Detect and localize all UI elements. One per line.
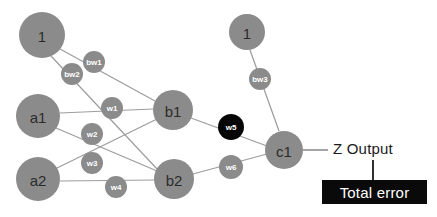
- weight-w3: w3: [81, 152, 103, 174]
- weight-label-w3: w3: [86, 159, 98, 168]
- weight-label-w6: w6: [225, 163, 237, 172]
- weight-bw3: bw3: [249, 68, 271, 90]
- neural-network-diagram: 1a1a2b1b21c1 bw1bw2bw3w1w2w3w4w5w6 Z Out…: [0, 0, 437, 217]
- weight-label-bw3: bw3: [252, 75, 268, 84]
- weight-w4: w4: [105, 176, 127, 198]
- node-bias2: 1: [229, 14, 265, 50]
- edge-a2-b1: [55, 119, 157, 169]
- node-b2: b2: [154, 159, 194, 199]
- weight-label-bw2: bw2: [64, 70, 80, 79]
- edge-a1-b2: [56, 128, 157, 171]
- node-a1: a1: [16, 94, 60, 138]
- node-b1: b1: [153, 90, 193, 130]
- nodes-group: 1a1a2b1b21c1: [16, 12, 303, 201]
- weight-w6: w6: [219, 155, 243, 179]
- node-label-b2: b2: [166, 172, 183, 189]
- weight-label-w1: w1: [106, 104, 118, 113]
- weight-label-bw1: bw1: [86, 58, 102, 67]
- total-error-box: Total error: [322, 180, 427, 204]
- node-label-b1: b1: [165, 103, 182, 120]
- node-label-a2: a2: [30, 172, 47, 189]
- node-label-a1: a1: [30, 109, 47, 126]
- node-bias1: 1: [19, 12, 65, 58]
- node-a2: a2: [16, 157, 60, 201]
- weight-w2: w2: [81, 123, 103, 145]
- weight-bw2: bw2: [61, 63, 83, 85]
- weight-w1: w1: [101, 97, 123, 119]
- z-output-label: Z Output: [333, 140, 393, 157]
- node-label-c1: c1: [276, 143, 292, 160]
- node-c1: c1: [265, 131, 303, 169]
- node-label-bias1: 1: [38, 28, 46, 45]
- weight-w5: w5: [218, 114, 244, 140]
- edge-bias2-c1: [250, 50, 279, 131]
- weight-label-w2: w2: [86, 130, 98, 139]
- weight-label-w4: w4: [110, 183, 122, 192]
- node-label-bias2: 1: [243, 25, 251, 42]
- weight-label-w5: w5: [225, 123, 237, 132]
- weight-bw1: bw1: [83, 51, 105, 73]
